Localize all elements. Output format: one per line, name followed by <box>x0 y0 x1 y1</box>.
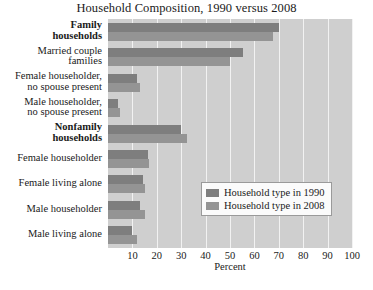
bar-group <box>108 48 352 66</box>
x-tick-label-10: 10 <box>127 250 138 261</box>
legend: Household type in 1990 Household type in… <box>201 182 332 216</box>
x-tick-label-20: 20 <box>152 250 163 261</box>
category-label: Female householder <box>17 153 102 164</box>
legend-item-1990: Household type in 1990 <box>206 186 325 199</box>
bar-group <box>108 74 352 92</box>
x-tick-label-40: 40 <box>200 250 211 261</box>
bar-group <box>108 23 352 41</box>
bar <box>108 184 145 193</box>
legend-item-2008: Household type in 2008 <box>206 199 325 212</box>
category-label: Married couple families <box>38 46 102 67</box>
bar <box>108 74 137 83</box>
bar <box>108 175 143 184</box>
category-label: Family households <box>52 20 102 41</box>
x-tick-label-60: 60 <box>249 250 260 261</box>
bar <box>108 83 140 92</box>
category-label: Female living alone <box>19 178 102 189</box>
bar <box>108 201 140 210</box>
bar <box>108 226 132 235</box>
gridline-100 <box>352 19 353 248</box>
bar-group <box>108 226 352 244</box>
legend-label-1990: Household type in 1990 <box>224 187 325 198</box>
x-tick-label-100: 100 <box>344 250 360 261</box>
bar <box>108 159 149 168</box>
legend-swatch-1990-icon <box>206 189 219 197</box>
category-label: Nonfamily households <box>52 122 102 143</box>
category-label: Female householder, no spouse present <box>15 71 102 92</box>
bar <box>108 99 118 108</box>
legend-swatch-2008-icon <box>206 202 219 210</box>
x-tick-label-30: 30 <box>176 250 187 261</box>
bar <box>108 134 187 143</box>
category-label: Male householder, no spouse present <box>24 97 102 118</box>
legend-label-2008: Household type in 2008 <box>224 200 325 211</box>
category-axis-labels: Family householdsMarried couple families… <box>0 19 105 248</box>
bar <box>108 48 243 57</box>
chart-title: Household Composition, 1990 versus 2008 <box>0 1 373 16</box>
bar <box>108 235 137 244</box>
bar <box>108 210 145 219</box>
bar <box>108 108 120 117</box>
bar-group <box>108 99 352 117</box>
x-axis-title: Percent <box>108 261 352 272</box>
category-label: Male householder <box>26 204 102 215</box>
bar-group <box>108 150 352 168</box>
x-tick-label-70: 70 <box>274 250 285 261</box>
bar <box>108 57 230 66</box>
bar <box>108 32 273 41</box>
bar-group <box>108 125 352 143</box>
x-tick-label-80: 80 <box>298 250 309 261</box>
category-label: Male living alone <box>28 229 102 240</box>
x-tick-label-90: 90 <box>322 250 333 261</box>
bar <box>108 150 148 159</box>
bar <box>108 23 279 32</box>
x-tick-label-50: 50 <box>225 250 236 261</box>
bar <box>108 125 181 134</box>
